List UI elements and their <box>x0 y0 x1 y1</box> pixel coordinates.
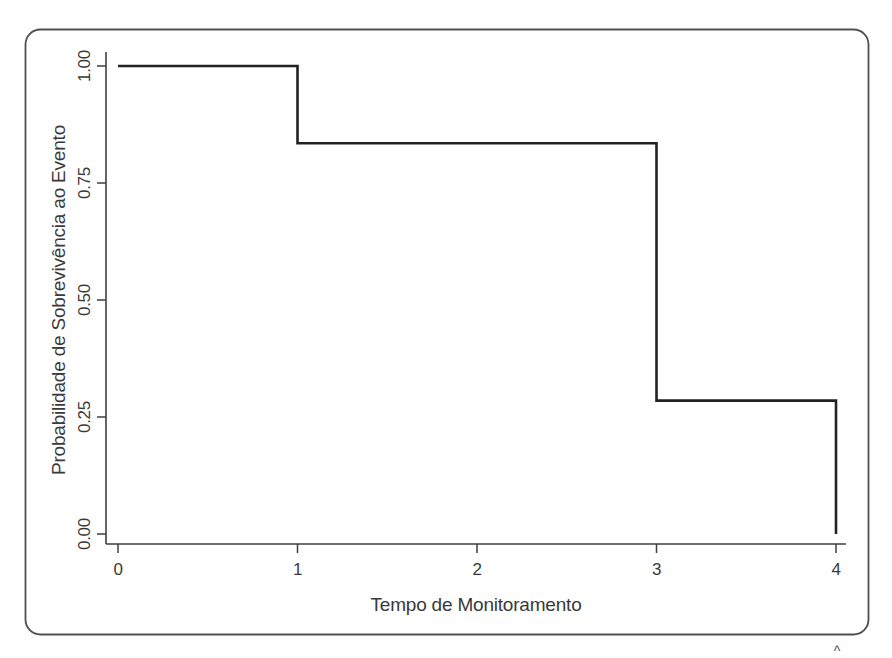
caret-mark: ^ <box>834 643 841 658</box>
x-axis-title: Tempo de Monitoramento <box>370 594 581 615</box>
y-tick-label-050: 0.50 <box>75 284 94 316</box>
y-axis-title: Probabilidade de Sobrevivência ao Evento <box>48 125 69 475</box>
y-tick-label-075: 0.75 <box>75 167 94 199</box>
survival-plot: 1.00 0.75 0.50 0.25 0.00 0 1 2 3 4 Proba… <box>0 0 892 658</box>
scanned-figure-page: 1.00 0.75 0.50 0.25 0.00 0 1 2 3 4 Proba… <box>0 0 892 658</box>
x-tick-label-4: 4 <box>831 560 840 579</box>
y-tick-label-000: 0.00 <box>75 518 94 550</box>
x-tick-label-3: 3 <box>652 560 661 579</box>
x-tick-label-0: 0 <box>113 560 122 579</box>
y-tick-label-100: 1.00 <box>75 50 94 82</box>
y-tick-label-025: 0.25 <box>75 401 94 433</box>
x-tick-label-1: 1 <box>293 560 302 579</box>
x-tick-label-2: 2 <box>472 560 481 579</box>
